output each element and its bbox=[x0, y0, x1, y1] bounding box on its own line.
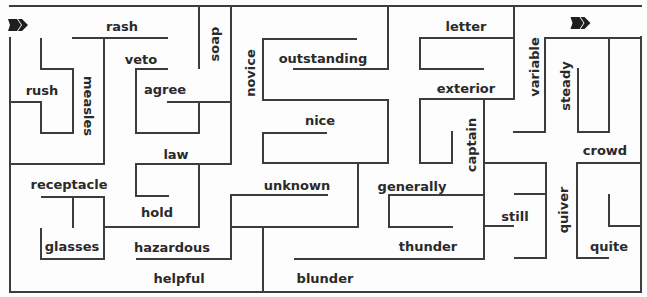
maze-word-steady: steady bbox=[559, 61, 572, 110]
maze-word-quiver: quiver bbox=[557, 187, 570, 234]
maze-word-captain: captain bbox=[465, 118, 478, 172]
maze-word-exterior: exterior bbox=[437, 82, 495, 95]
word-maze: rash veto agree rush measles soap novice… bbox=[0, 0, 647, 297]
maze-word-still: still bbox=[501, 210, 528, 223]
maze-word-helpful: helpful bbox=[153, 272, 204, 285]
maze-word-unknown: unknown bbox=[264, 179, 331, 192]
maze-word-blunder: blunder bbox=[297, 272, 354, 285]
maze-word-thunder: thunder bbox=[399, 240, 458, 253]
maze-word-measles: measles bbox=[82, 76, 95, 136]
maze-word-variable: variable bbox=[528, 37, 541, 96]
maze-word-crowd: crowd bbox=[583, 144, 627, 157]
maze-word-law: law bbox=[163, 148, 188, 161]
maze-word-rush: rush bbox=[26, 84, 59, 97]
maze-word-rash: rash bbox=[106, 20, 138, 33]
maze-word-quite: quite bbox=[590, 240, 628, 253]
maze-word-glasses: glasses bbox=[45, 240, 100, 253]
maze-word-hazardous: hazardous bbox=[134, 241, 210, 254]
maze-word-hold: hold bbox=[141, 206, 173, 219]
maze-word-nice: nice bbox=[305, 114, 335, 127]
maze-word-agree: agree bbox=[144, 83, 186, 96]
maze-word-outstanding: outstanding bbox=[279, 52, 368, 65]
maze-word-veto: veto bbox=[125, 53, 157, 66]
start-arrow-icon bbox=[8, 19, 29, 31]
maze-word-novice: novice bbox=[244, 49, 257, 97]
maze-word-letter: letter bbox=[446, 20, 487, 33]
end-arrow-icon bbox=[570, 17, 592, 29]
maze-word-receptacle: receptacle bbox=[30, 178, 107, 191]
maze-word-generally: generally bbox=[378, 180, 447, 193]
maze-word-soap: soap bbox=[208, 27, 221, 62]
